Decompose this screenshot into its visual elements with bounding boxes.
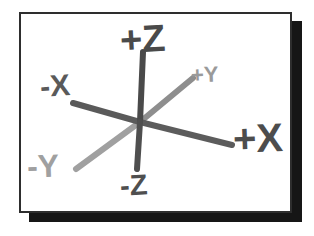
axis-line-minus-z bbox=[137, 122, 140, 169]
axis-label-plus-z: +Z bbox=[119, 19, 166, 59]
axis-line-plus-z bbox=[140, 52, 143, 122]
axis-label-plus-x: +X bbox=[232, 117, 283, 159]
axes-diagram: +Z -Z -X +X +Y -Y bbox=[21, 14, 290, 211]
axis-line-minus-x bbox=[73, 103, 140, 122]
axis-label-plus-y: +Y bbox=[191, 64, 219, 87]
figure-canvas: +Z -Z -X +X +Y -Y bbox=[0, 0, 314, 236]
axis-label-minus-z: -Z bbox=[119, 170, 148, 200]
axis-line-plus-x bbox=[140, 122, 232, 145]
axis-label-minus-y: -Y bbox=[26, 149, 59, 182]
axis-line-plus-y bbox=[140, 78, 193, 122]
figure-card: +Z -Z -X +X +Y -Y bbox=[19, 12, 292, 213]
axis-label-minus-x: -X bbox=[39, 70, 71, 102]
axis-line-minus-y bbox=[76, 122, 140, 169]
